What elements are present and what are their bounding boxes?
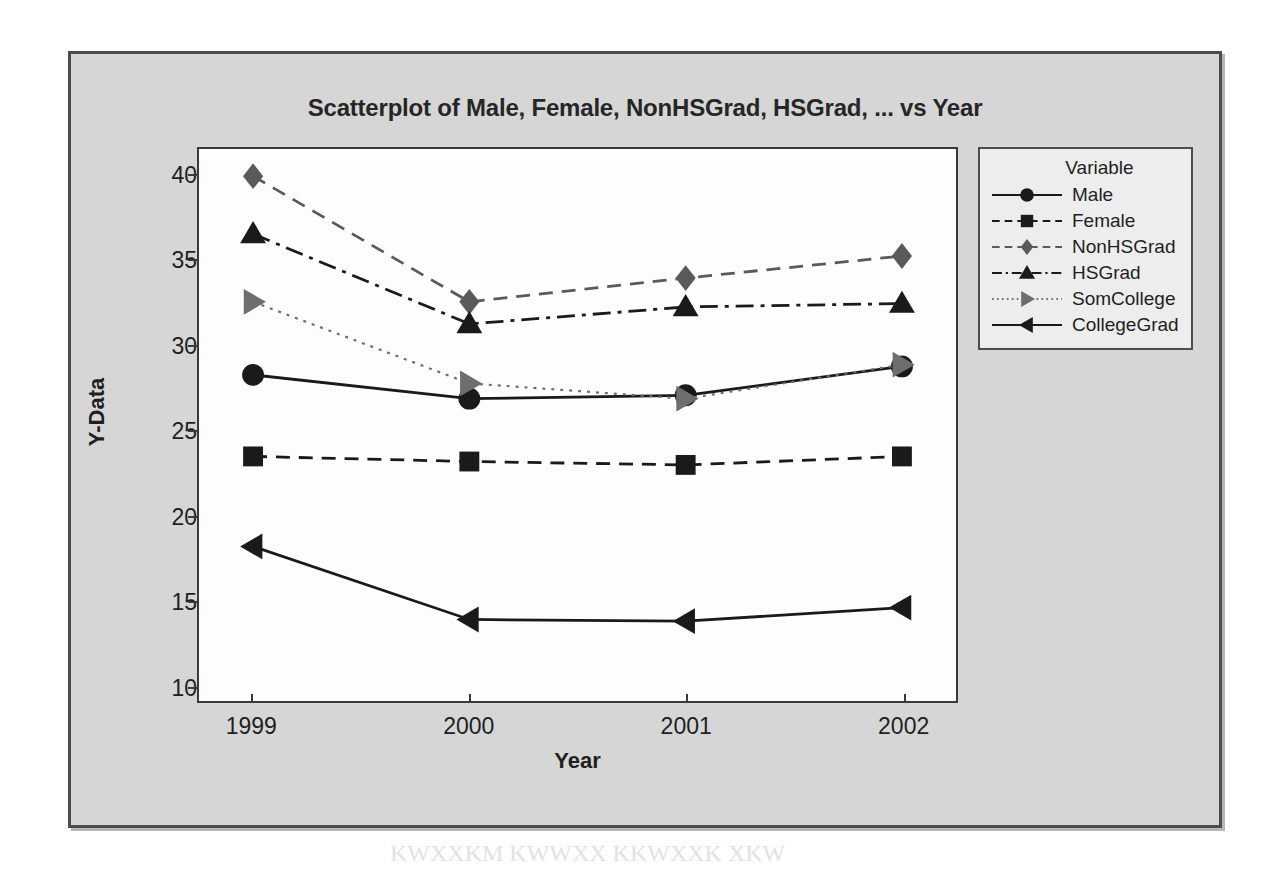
series-line [253,456,902,464]
y-tick-mark [188,687,197,689]
data-point-marker [1021,239,1034,255]
chart-frame: Scatterplot of Male, Female, NonHSGrad, … [68,51,1222,828]
legend-item-collegegrad[interactable]: CollegeGrad [990,312,1181,338]
data-point-marker [243,446,263,466]
chart-legend: Variable MaleFemaleNonHSGradHSGradSomCol… [978,147,1193,350]
series-line [253,302,902,399]
data-point-marker [459,289,479,315]
x-tick-label: 2000 [429,713,509,740]
x-tick-label: 1999 [211,713,291,740]
data-point-marker [244,289,266,315]
data-point-marker [240,221,266,243]
legend-label: NonHSGrad [1064,236,1176,258]
series-line [253,234,902,324]
legend-rows: MaleFemaleNonHSGradHSGradSomCollegeColle… [990,182,1181,338]
legend-label: Female [1064,210,1135,232]
legend-key-icon [990,184,1064,206]
chart-title: Scatterplot of Male, Female, NonHSGrad, … [71,94,1219,122]
legend-item-hsgrad[interactable]: HSGrad [990,260,1181,286]
y-tick-mark [188,516,197,518]
x-tick-mark [469,694,471,703]
data-point-marker [892,243,912,269]
legend-title: Variable [990,157,1181,179]
series-hsgrad [240,221,915,333]
series-nonhsgrad [243,163,912,314]
data-point-marker [1019,317,1033,333]
x-tick-label: 2002 [864,713,944,740]
legend-label: Male [1064,184,1113,206]
legend-key-icon [990,262,1064,284]
data-point-marker [889,595,911,621]
data-point-marker [240,534,262,560]
data-point-marker [676,265,696,291]
data-point-marker [1021,215,1033,227]
y-tick-mark [188,430,197,432]
y-tick-mark [188,601,197,603]
x-axis-label: Year [197,748,958,774]
x-tick-mark [686,694,688,703]
legend-item-male[interactable]: Male [990,182,1181,208]
series-somcollege [244,289,915,412]
x-tick-label: 2001 [646,713,726,740]
legend-key-icon [990,288,1064,310]
data-point-marker [892,446,912,466]
data-point-marker [456,607,478,633]
series-collegegrad [240,534,911,635]
legend-item-female[interactable]: Female [990,208,1181,234]
legend-label: CollegeGrad [1064,314,1179,336]
series-line [253,546,902,621]
data-point-marker [459,452,479,472]
series-male [242,355,913,409]
data-point-marker [1021,291,1035,307]
background-bleed-line-7: KWXXKM KWWXX KKWXXK XKW [390,840,785,867]
legend-label: HSGrad [1064,262,1141,284]
legend-key-icon [990,236,1064,258]
y-axis-ticks: 10152025303540 [131,147,197,703]
series-female [243,446,912,474]
legend-key-icon [990,210,1064,232]
legend-item-somcollege[interactable]: SomCollege [990,286,1181,312]
x-tick-mark [904,694,906,703]
x-tick-mark [251,694,253,703]
series-line [253,366,902,398]
plot-panel [197,147,958,703]
legend-label: SomCollege [1064,288,1176,310]
data-point-marker [673,294,699,316]
plot-area [199,149,956,701]
legend-key-icon [990,314,1064,336]
data-point-marker [889,291,915,313]
y-tick-mark [188,259,197,261]
x-axis-ticks: 1999200020012002 [197,703,958,749]
data-point-marker [243,163,263,189]
data-point-marker [673,608,695,634]
y-tick-mark [188,174,197,176]
data-point-marker [1019,265,1035,279]
y-tick-mark [188,345,197,347]
series-line [253,176,902,302]
data-point-marker [676,455,696,475]
data-point-marker [1020,188,1034,202]
data-point-marker [242,364,264,386]
y-axis-label: Y-Data [84,352,110,472]
legend-item-nonhsgrad[interactable]: NonHSGrad [990,234,1181,260]
